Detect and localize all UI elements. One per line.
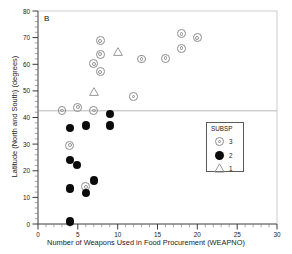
- data-point-filled-circle: [66, 217, 74, 225]
- data-point-open-circle-target: [161, 54, 170, 63]
- data-point-filled-circle: [106, 110, 114, 118]
- legend-symbol-filled-circle-icon: [215, 151, 224, 160]
- data-point-open-circle-target: [193, 33, 202, 42]
- data-point-open-circle-target: [129, 92, 138, 101]
- data-point-open-circle-target: [96, 50, 105, 59]
- data-point-open-circle-target: [137, 55, 146, 64]
- legend-symbol-open-triangle-icon: [214, 163, 225, 173]
- data-point-open-circle-target: [96, 36, 105, 45]
- data-point-open-circle-target: [73, 103, 82, 112]
- data-point-open-circle-target: [89, 106, 98, 115]
- scatter-chart-figure: Latitude (North and South) (degrees) Num…: [0, 0, 292, 254]
- data-point-filled-circle: [82, 189, 90, 197]
- data-point-filled-circle: [66, 124, 74, 132]
- data-point-filled-circle: [106, 121, 114, 129]
- legend-label: 1: [229, 165, 233, 172]
- data-point-open-circle-target: [65, 141, 74, 150]
- data-points-layer: [0, 0, 292, 254]
- data-point-open-triangle: [113, 47, 123, 56]
- data-point-open-circle-target: [58, 106, 67, 115]
- data-point-open-triangle: [89, 87, 99, 96]
- data-point-filled-circle: [73, 161, 81, 169]
- legend-label: 3: [229, 138, 233, 145]
- data-point-open-circle-target: [96, 67, 105, 76]
- data-point-filled-circle: [82, 121, 90, 129]
- data-point-filled-circle: [90, 176, 98, 184]
- legend-label: 2: [229, 152, 233, 159]
- legend-box: SUBSP 3 2 1: [206, 122, 244, 172]
- legend-title: SUBSP: [211, 125, 232, 132]
- data-point-open-circle-target: [177, 29, 186, 38]
- data-point-open-circle-target: [177, 44, 186, 53]
- legend-symbol-open-circle-target-icon: [215, 137, 224, 146]
- data-point-filled-circle: [66, 184, 74, 192]
